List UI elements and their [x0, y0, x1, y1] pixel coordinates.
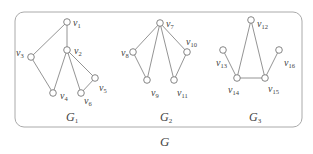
vertex-label-v14: v14 [228, 84, 240, 96]
vertex-v7 [157, 20, 164, 27]
vertex-v9 [144, 77, 151, 84]
vertex-label-v11: v11 [177, 87, 188, 99]
vertex-label-v5: v5 [99, 82, 107, 94]
edge-v10-v11 [174, 52, 187, 80]
edge-v7-v8 [133, 23, 160, 52]
vertex-v14 [234, 75, 241, 82]
edge-v7-v9 [147, 23, 160, 80]
vertex-label-v6: v6 [84, 95, 92, 107]
component-labels: G1G2G3 [66, 110, 262, 125]
vertex-v13 [220, 47, 227, 54]
edge-v7-v11 [160, 23, 174, 80]
vertex-v4 [50, 90, 57, 97]
vertex-v3 [28, 54, 35, 61]
vertex-label-v1: v1 [73, 17, 81, 29]
vertex-label-v13: v13 [216, 57, 227, 69]
vertex-label-v2: v2 [74, 45, 82, 57]
edge-v12-v14 [237, 20, 251, 78]
graph-diagram: v1v2v3v4v5v6v7v8v9v10v11v12v13v14v15v16 … [0, 0, 313, 154]
vertex-v12 [248, 17, 255, 24]
vertex-label-v4: v4 [60, 90, 68, 102]
component-label-G1: G1 [66, 110, 79, 125]
edge-v15-v16 [265, 50, 279, 78]
vertex-v11 [171, 77, 178, 84]
edge-v1-v3 [31, 22, 67, 57]
vertex-v8 [130, 49, 137, 56]
vertex-label-v9: v9 [151, 87, 159, 99]
edge-v3-v4 [31, 57, 53, 93]
vertex-v5 [92, 75, 99, 82]
edges [31, 20, 279, 93]
vertex-v1 [64, 19, 71, 26]
component-label-G2: G2 [160, 110, 173, 125]
vertex-v15 [262, 75, 269, 82]
vertex-v10 [184, 49, 191, 56]
edge-v2-v4 [53, 50, 67, 93]
vertex-v2 [64, 47, 71, 54]
vertex-label-v12: v12 [257, 18, 268, 30]
vertex-label-v15: v15 [268, 83, 279, 95]
vertex-v16 [276, 47, 283, 54]
vertex-label-v8: v8 [121, 47, 129, 59]
figure-caption: G [160, 134, 170, 149]
vertex-label-v10: v10 [186, 36, 197, 48]
vertex-label-v3: v3 [16, 47, 24, 59]
vertex-label-v7: v7 [166, 18, 174, 30]
component-label-G3: G3 [249, 110, 262, 125]
edge-v8-v9 [133, 52, 147, 80]
vertex-label-v16: v16 [284, 57, 296, 69]
